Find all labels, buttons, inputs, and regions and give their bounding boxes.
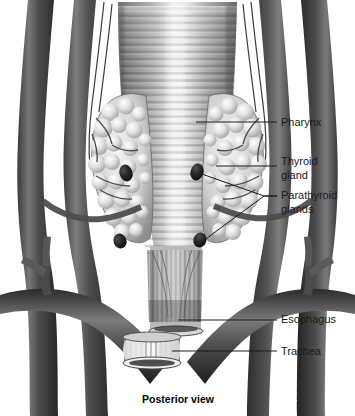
esophagus-structure <box>145 244 207 336</box>
label-parathyroid-glands-line2: glands <box>281 203 314 215</box>
label-esophagus: Esophagus <box>281 313 337 325</box>
trachea-top-rim <box>123 332 181 342</box>
label-parathyroid-glands-line1: Parathyroid <box>281 189 337 201</box>
esophagus-lumen <box>154 326 198 332</box>
trachea-lumen <box>129 359 175 366</box>
figure-caption: Posterior view <box>142 393 215 405</box>
pharynx-highlight <box>166 0 184 268</box>
anatomical-figure: Pharynx Thyroid gland Parathyroid glands… <box>0 0 355 416</box>
illustration-canvas: Pharynx Thyroid gland Parathyroid glands… <box>0 0 355 416</box>
label-trachea: Trachea <box>281 345 322 357</box>
label-thyroid-gland-line2: gland <box>281 169 308 181</box>
label-pharynx: Pharynx <box>281 116 322 128</box>
label-thyroid-gland-line1: Thyroid <box>281 155 318 167</box>
